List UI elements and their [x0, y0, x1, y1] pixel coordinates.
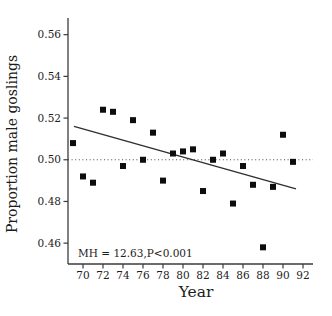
stat-annotation: MH = 12.63,P<0.001	[78, 247, 193, 259]
x-tick-label: 74	[116, 269, 130, 281]
data-point-year-77	[150, 130, 156, 136]
data-point-year-87	[250, 182, 256, 188]
y-tick-label: 0.50	[38, 153, 61, 165]
data-point-year-89	[270, 184, 276, 190]
scatter-plot-figure: 0.460.480.500.520.540.567072747678808284…	[0, 0, 332, 316]
data-point-year-88	[260, 244, 266, 250]
data-point-year-81	[190, 146, 196, 152]
x-tick-label: 72	[96, 269, 109, 281]
data-point-year-78	[160, 178, 166, 184]
x-tick-label: 92	[296, 269, 309, 281]
data-point-year-71	[90, 180, 96, 186]
x-tick-label: 76	[136, 269, 150, 281]
data-point-year-72	[100, 107, 106, 113]
data-point-year-84	[220, 151, 226, 157]
data-point-year-83	[210, 157, 216, 163]
x-tick-label: 88	[256, 269, 269, 281]
x-tick-label: 84	[216, 269, 230, 281]
data-point-year-90	[280, 132, 286, 138]
trend-line	[74, 126, 296, 189]
y-axis-title: Proportion male goslings	[4, 55, 20, 233]
data-point-year-80	[180, 148, 186, 154]
x-tick-label: 80	[176, 269, 189, 281]
y-tick-label: 0.56	[38, 28, 62, 40]
data-point-year-70	[80, 173, 86, 179]
data-point-year-86	[240, 163, 246, 169]
data-point-year-75	[130, 117, 136, 123]
data-point-year-76	[140, 157, 146, 163]
data-point-year-73	[110, 109, 116, 115]
chart-canvas: 0.460.480.500.520.540.567072747678808284…	[0, 0, 332, 316]
x-axis-title: Year	[178, 283, 214, 301]
y-tick-label: 0.52	[38, 112, 61, 124]
data-point-year-69	[70, 140, 76, 146]
x-tick-label: 90	[276, 269, 289, 281]
y-tick-label: 0.46	[38, 237, 62, 249]
data-point-year-79	[170, 151, 176, 157]
data-point-year-91	[290, 159, 296, 165]
x-tick-label: 70	[76, 269, 89, 281]
y-tick-label: 0.48	[38, 195, 61, 207]
y-tick-label: 0.54	[38, 70, 62, 82]
data-point-year-85	[230, 201, 236, 207]
x-tick-label: 78	[156, 269, 169, 281]
x-tick-label: 86	[236, 269, 250, 281]
data-point-year-82	[200, 188, 206, 194]
x-tick-label: 82	[196, 269, 209, 281]
data-point-year-74	[120, 163, 126, 169]
